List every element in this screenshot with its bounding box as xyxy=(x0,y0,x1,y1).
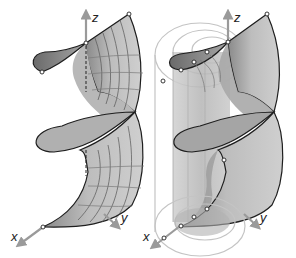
cylinder-base xyxy=(174,208,230,236)
x-label-left: x xyxy=(10,229,18,244)
y-label-left: y xyxy=(120,210,129,225)
right-panel: z x y xyxy=(142,10,283,256)
left-panel: z xyxy=(10,10,144,244)
x-label-right: x xyxy=(142,229,150,244)
y-label-right: y xyxy=(259,210,268,225)
z-label-right: z xyxy=(233,10,241,25)
x-axis-left xyxy=(20,227,43,244)
helicoid-diagram: z xyxy=(0,0,296,258)
z-label-left: z xyxy=(91,10,99,25)
